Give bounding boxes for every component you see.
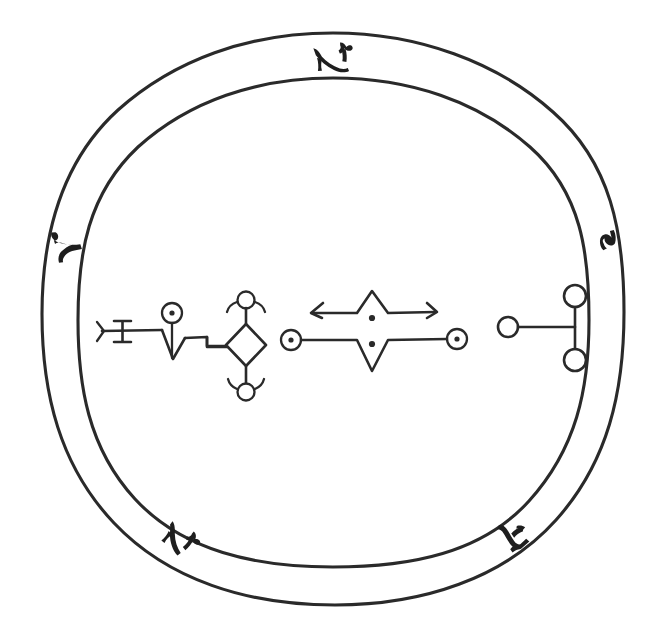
sigil-center <box>281 291 467 371</box>
diamond-icon <box>226 324 266 366</box>
top-circle-right-arm <box>255 302 265 312</box>
outer-circle-stroke <box>42 33 624 605</box>
arrow-left-barb-icon <box>311 303 323 318</box>
glyph-left-nun <box>49 225 84 263</box>
center-left-dot <box>288 337 293 342</box>
star-lower-dot <box>369 341 375 347</box>
v-notch-icon <box>162 330 185 359</box>
arrow-right-barb-icon <box>427 303 437 318</box>
top-open-circle-icon <box>238 292 255 309</box>
bottom-circle-right-arm <box>255 379 264 389</box>
center-right-dot <box>454 336 459 341</box>
sigil-diagram <box>0 0 665 643</box>
top-circle-left-arm <box>227 302 237 312</box>
left-stem-line <box>102 330 162 331</box>
right-top-open-circle-icon <box>564 285 586 307</box>
outer-ring-band <box>42 33 624 605</box>
bottom-open-circle-icon <box>238 384 255 401</box>
sigil-diagram-canvas: Magic Circle Sigil Diagram pen-and-ink l… <box>0 0 665 643</box>
glyph-top-aleph <box>313 42 354 75</box>
step-line <box>185 337 225 346</box>
right-bottom-open-circle-icon <box>564 349 586 371</box>
center-upper-axis <box>312 291 435 313</box>
dotted-circle-center-dot <box>169 310 174 315</box>
star-upper-dot <box>369 315 375 321</box>
sigil-right <box>498 285 586 371</box>
right-left-open-circle-icon <box>498 317 518 337</box>
ring-glyph-group <box>49 42 618 562</box>
glyph-right-zayin <box>598 230 619 251</box>
inner-circle-stroke <box>78 78 589 567</box>
sigil-left <box>97 292 266 401</box>
bottom-circle-left-arm <box>228 379 237 389</box>
